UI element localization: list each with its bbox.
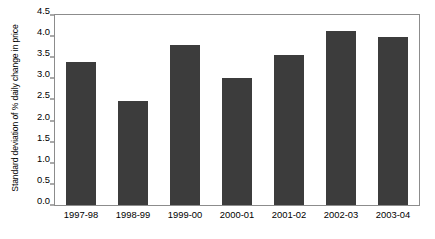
y-axis-tick-label: 1.5 [37, 131, 50, 142]
y-axis-tick-label: 2.0 [37, 110, 50, 121]
y-axis-tick-label: 3.5 [37, 47, 50, 58]
bar[interactable] [378, 37, 407, 205]
y-axis-tick-label: 0.0 [37, 195, 50, 206]
bar-column[interactable] [378, 15, 407, 205]
y-axis-tick-label: 2.5 [37, 89, 50, 100]
y-axis-tick-label: 1.0 [37, 152, 50, 163]
bar-column[interactable] [222, 15, 251, 205]
y-axis-tick-label: 3.0 [37, 68, 50, 79]
bar-column[interactable] [118, 15, 147, 205]
bar[interactable] [274, 55, 303, 205]
x-axis-tick-label: 2001-02 [263, 209, 315, 220]
bar-chart-figure: Standard deviation of % daily change in … [0, 0, 435, 239]
bar-column[interactable] [326, 15, 355, 205]
x-axis-tick-label: 1998-99 [107, 209, 159, 220]
bar[interactable] [222, 78, 251, 206]
bar-series-group [55, 15, 419, 205]
y-axis-tick-label-group: 0.00.51.01.52.02.53.03.54.04.5 [22, 9, 50, 209]
x-axis-tick-label: 1997-98 [55, 209, 107, 220]
bar-column[interactable] [66, 15, 95, 205]
y-axis-tick-label: 4.0 [37, 26, 50, 37]
bar[interactable] [118, 101, 147, 205]
x-axis-tick-label: 2003-04 [367, 209, 419, 220]
bar[interactable] [66, 62, 95, 205]
x-axis-tick-label: 2002-03 [315, 209, 367, 220]
y-axis-tick-label: 4.5 [37, 5, 50, 16]
x-axis-tick-label-group: 1997-981998-991999-002000-012001-022002-… [55, 209, 419, 225]
bar-column[interactable] [274, 15, 303, 205]
bar-column[interactable] [170, 15, 199, 205]
x-axis-tick-label: 2000-01 [211, 209, 263, 220]
x-axis-tick-label: 1999-00 [159, 209, 211, 220]
y-axis-tick-label: 0.5 [37, 173, 50, 184]
bar[interactable] [170, 45, 199, 205]
bar[interactable] [326, 31, 355, 205]
